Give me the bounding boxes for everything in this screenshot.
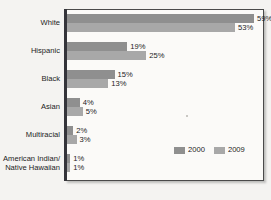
- bar-rect: [67, 135, 77, 144]
- bar-value-label: 13%: [108, 79, 126, 88]
- chart-legend: 2000 2009: [174, 146, 245, 154]
- bar-value-label: 25%: [146, 51, 164, 60]
- bar-rect: [67, 98, 80, 107]
- bar-value-label: 1%: [70, 163, 84, 172]
- legend-swatch-2000: [174, 147, 185, 154]
- bar-value-label: 19%: [127, 42, 145, 51]
- category-label: Asian: [0, 102, 60, 111]
- bar-2000: 2%: [67, 126, 90, 135]
- bar-2009: 25%: [67, 51, 164, 60]
- category-label-line: American Indian/: [3, 154, 60, 163]
- bar-rect: [67, 70, 115, 79]
- bar-2009: 5%: [67, 107, 97, 116]
- bar-rect: [67, 14, 254, 23]
- bar-2000: 19%: [67, 42, 164, 51]
- bars: 15%13%: [67, 70, 133, 88]
- bar-value-label: 3%: [77, 135, 91, 144]
- legend-item-2009: 2009: [214, 146, 245, 154]
- bars: 59%53%: [67, 14, 271, 32]
- category-label: White: [0, 18, 60, 27]
- bars: 4%5%: [67, 98, 97, 116]
- bar-rect: [67, 23, 235, 32]
- bar-2009: 1%: [67, 163, 84, 172]
- bar-value-label: 2%: [73, 126, 87, 135]
- legend-label-2009: 2009: [228, 146, 245, 154]
- bar-value-label: 15%: [115, 70, 133, 79]
- bar-value-label: 59%: [254, 14, 271, 23]
- bar-2009: 3%: [67, 135, 90, 144]
- bar-value-label: 4%: [80, 98, 94, 107]
- category-label-line: Hispanic: [31, 46, 60, 55]
- plot-area: [65, 9, 264, 181]
- category-label-line: Native Hawaiian: [0, 163, 60, 172]
- category-label-line: White: [41, 18, 60, 27]
- bar-2000: 59%: [67, 14, 271, 23]
- legend-label-2000: 2000: [188, 146, 205, 154]
- bars: 1%1%: [67, 154, 84, 172]
- bar-2009: 53%: [67, 23, 271, 32]
- category-label-line: Black: [41, 74, 60, 83]
- bar-chart-figure: White59%53%Hispanic19%25%Black15%13%Asia…: [0, 0, 271, 200]
- category-label-line: Multiracial: [26, 130, 60, 139]
- category-label: American Indian/Native Hawaiian: [0, 154, 60, 172]
- bar-rect: [67, 107, 83, 116]
- bar-value-label: 5%: [83, 107, 97, 116]
- category-label: Hispanic: [0, 46, 60, 55]
- bar-2000: 4%: [67, 98, 97, 107]
- bars: 19%25%: [67, 42, 164, 60]
- bar-2009: 13%: [67, 79, 133, 88]
- legend-item-2000: 2000: [174, 146, 205, 154]
- bar-2000: 1%: [67, 154, 84, 163]
- bars: 2%3%: [67, 126, 90, 144]
- category-label-line: Asian: [41, 102, 60, 111]
- bar-2000: 15%: [67, 70, 133, 79]
- bar-rect: [67, 51, 146, 60]
- bar-rect: [67, 79, 108, 88]
- bar-value-label: 53%: [235, 23, 253, 32]
- bar-rect: [67, 42, 127, 51]
- category-label: Multiracial: [0, 130, 60, 139]
- bar-value-label: 1%: [70, 154, 84, 163]
- page-speck-artifact: [186, 115, 188, 117]
- category-label: Black: [0, 74, 60, 83]
- legend-swatch-2009: [214, 147, 225, 154]
